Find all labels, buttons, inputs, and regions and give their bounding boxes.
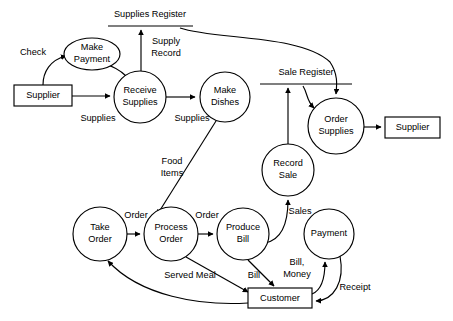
- process-produce-bill-label-line2: Bill: [237, 234, 249, 244]
- process-receive-supplies[interactable]: Receive Supplies: [114, 71, 166, 123]
- process-process-order[interactable]: Process Order: [144, 207, 198, 261]
- process-record-sale-label-line1: Record: [273, 158, 303, 168]
- process-produce-bill-label-line1: Produce: [226, 222, 260, 232]
- process-order-supplies-label-line2: Supplies: [318, 126, 354, 136]
- flow-meal-return-arrow: [108, 261, 248, 304]
- dfd-svg: Supplies Register Sale Register: [0, 0, 453, 321]
- process-make-payment-label-line2: Payment: [74, 54, 111, 64]
- flow-label-served-meal: Served Meal: [164, 270, 216, 280]
- flow-label-bill: Bill: [248, 270, 260, 280]
- flow-label-sales: Sales: [289, 206, 312, 216]
- flow-label-supplies-in: Supplies: [80, 113, 116, 123]
- process-take-order-label-line2: Order: [88, 234, 112, 244]
- flow-bill-money-arrow: [312, 262, 325, 294]
- flow-label-bill-money-line2: Money: [283, 269, 311, 279]
- datastore-supplies-register[interactable]: Supplies Register: [108, 9, 193, 26]
- flow-label-bill-money-line1: Bill,: [290, 257, 305, 267]
- process-receive-supplies-label-line2: Supplies: [122, 97, 158, 107]
- process-record-sale-label-line2: Sale: [279, 170, 297, 180]
- process-make-dishes-label-line2: Dishes: [211, 97, 239, 107]
- external-supplier-right[interactable]: Supplier: [385, 117, 440, 138]
- process-make-dishes-label-line1: Make: [214, 85, 236, 95]
- dfd-canvas: Supplies Register Sale Register: [0, 0, 453, 321]
- process-process-order-label-line2: Order: [159, 234, 183, 244]
- external-supplier-left[interactable]: Supplier: [14, 85, 72, 106]
- external-customer-label: Customer: [260, 293, 300, 303]
- flow-sale-to-order-arrow: [303, 86, 314, 108]
- datastore-sale-register[interactable]: Sale Register: [260, 67, 352, 84]
- external-supplier-left-label: Supplier: [26, 90, 60, 100]
- process-payment[interactable]: Payment: [304, 209, 354, 259]
- datastore-supplies-register-label: Supplies Register: [114, 9, 186, 19]
- process-make-payment[interactable]: Make Payment: [64, 38, 120, 70]
- process-receive-supplies-label-line1: Receive: [123, 85, 156, 95]
- flow-label-receipt: Receipt: [339, 282, 371, 292]
- process-order-supplies[interactable]: Order Supplies: [308, 98, 364, 154]
- process-take-order-label-line1: Take: [90, 222, 109, 232]
- process-take-order[interactable]: Take Order: [73, 207, 127, 261]
- process-make-payment-label-line1: Make: [81, 42, 103, 52]
- flow-label-order1: Order: [124, 210, 148, 220]
- flow-check-arrow: [43, 56, 66, 85]
- process-produce-bill[interactable]: Produce Bill: [217, 208, 269, 260]
- datastore-sale-register-label: Sale Register: [278, 67, 333, 77]
- flow-label-supply-record-line1: Supply: [152, 36, 180, 46]
- external-supplier-right-label: Supplier: [396, 122, 430, 132]
- flow-label-check: Check: [20, 47, 46, 57]
- process-payment-label: Payment: [311, 228, 348, 238]
- flow-label-order2: Order: [195, 210, 219, 220]
- flow-label-supply-record-line2: Record: [151, 48, 181, 58]
- flow-label-food-items-line2: Items: [161, 168, 184, 178]
- process-process-order-label-line1: Process: [154, 222, 188, 232]
- process-record-sale[interactable]: Record Sale: [262, 144, 314, 196]
- external-customer[interactable]: Customer: [248, 288, 312, 308]
- process-order-supplies-label-line1: Order: [324, 114, 348, 124]
- flow-receipt-arrow: [316, 256, 341, 301]
- flow-label-supplies-out: Supplies: [174, 113, 210, 123]
- flow-label-food-items-line1: Food: [162, 156, 183, 166]
